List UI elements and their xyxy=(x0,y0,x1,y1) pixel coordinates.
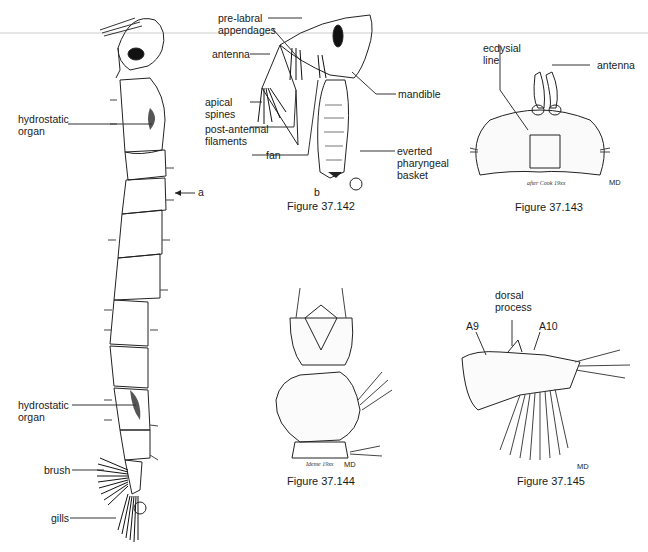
illustrations xyxy=(0,0,648,552)
caption-figure-37-142: Figure 37.142 xyxy=(287,200,355,212)
label-arrow-a: a xyxy=(198,186,204,198)
caption-figure-37-143: Figure 37.143 xyxy=(515,201,583,213)
hydrostatic-organ-top xyxy=(148,108,155,130)
label-hydrostatic-organ-top: hydrostatic organ xyxy=(18,113,69,137)
label-pre-labral-appendages: pre-labral appendages xyxy=(218,12,276,36)
label-brush: brush xyxy=(44,464,70,476)
figure-page: hydrostatic organ a hydrostatic organ br… xyxy=(0,0,648,552)
fig142-drawing xyxy=(250,15,396,190)
brush-drawing xyxy=(97,458,128,505)
label-gills: gills xyxy=(51,512,69,524)
credit-143: after Cook 19xx xyxy=(527,180,565,186)
larva-eye xyxy=(128,48,144,60)
caption-figure-37-145: Figure 37.145 xyxy=(517,475,585,487)
label-everted-pharyngeal-basket: everted pharyngeal basket xyxy=(397,145,449,181)
fig144-drawing xyxy=(276,288,392,458)
signature-143: MD xyxy=(609,178,621,187)
label-apical-spines: apical spines xyxy=(205,96,235,120)
caption-figure-37-144: Figure 37.144 xyxy=(287,475,355,487)
label-a9: A9 xyxy=(466,320,479,332)
label-a10: A10 xyxy=(539,320,558,332)
label-ecdysial-line: ecdysial line xyxy=(483,42,521,66)
larva-drawing xyxy=(68,18,195,542)
label-mandible: mandible xyxy=(398,88,441,100)
signature-144: MD xyxy=(344,460,356,469)
gills-drawing xyxy=(118,494,138,542)
fig145-drawing xyxy=(462,320,630,460)
credit-144: Ideme 19xx xyxy=(306,461,333,467)
label-hydrostatic-organ-bottom: hydrostatic organ xyxy=(18,399,69,423)
signature-145: MD xyxy=(577,462,589,471)
label-antenna-142: antenna xyxy=(212,48,250,60)
label-sub-b: b xyxy=(314,186,320,198)
label-fan: fan xyxy=(266,149,281,161)
label-antenna-143: antenna xyxy=(597,59,635,71)
label-dorsal-process: dorsal process xyxy=(495,289,532,313)
label-post-antennal-filaments: post-antennal filaments xyxy=(205,123,269,147)
